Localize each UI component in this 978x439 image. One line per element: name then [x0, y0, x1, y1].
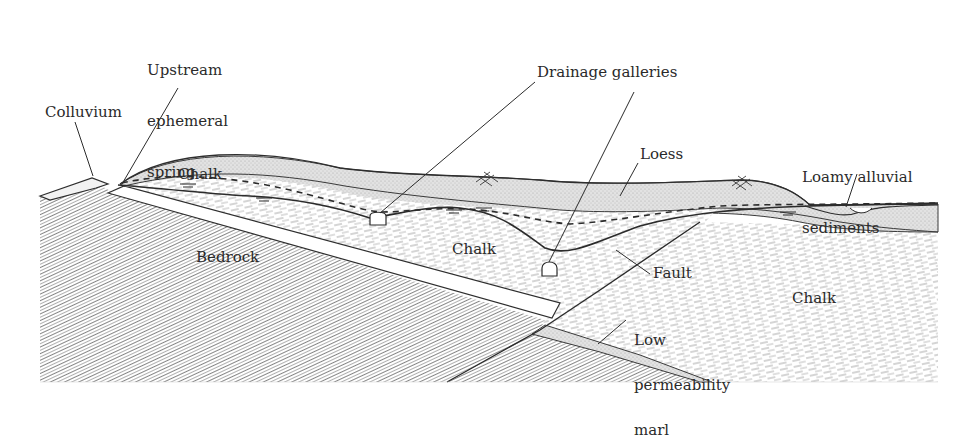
label-colluvium: Colluvium: [45, 104, 122, 121]
drainage-gallery-left: [370, 212, 386, 225]
label-drainage-galleries: Drainage galleries: [537, 64, 677, 81]
label-chalk-upper: Chalk: [178, 166, 222, 183]
drainage-gallery-right: [542, 262, 557, 276]
label-bedrock: Bedrock: [196, 249, 259, 266]
label-fault: Fault: [653, 265, 692, 282]
label-marl: Low permeability marl: [634, 303, 730, 439]
label-loamy-alluvial: Loamy alluvial sediments: [802, 135, 913, 254]
label-chalk-right: Chalk: [792, 290, 836, 307]
label-chalk-middle: Chalk: [452, 241, 496, 258]
label-loess: Loess: [640, 146, 683, 163]
